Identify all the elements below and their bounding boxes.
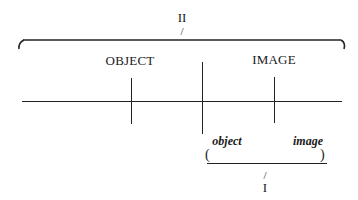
diagram-canvas: II / OBJECT IMAGE object image ( ) / I xyxy=(0,0,358,200)
object-label-upper: OBJECT xyxy=(106,54,155,67)
object-label-lower: object xyxy=(212,135,241,147)
image-label-upper: IMAGE xyxy=(252,53,296,66)
inner-bracket-close: ) xyxy=(320,148,325,162)
inner-group-underline xyxy=(207,163,327,164)
inner-group-label: I xyxy=(263,181,267,194)
main-axis-line xyxy=(22,101,342,102)
center-divider xyxy=(202,62,203,134)
image-label-lower: image xyxy=(293,135,323,147)
image-tick xyxy=(274,77,275,123)
object-tick xyxy=(131,78,132,124)
inner-bracket-open: ( xyxy=(205,148,210,162)
